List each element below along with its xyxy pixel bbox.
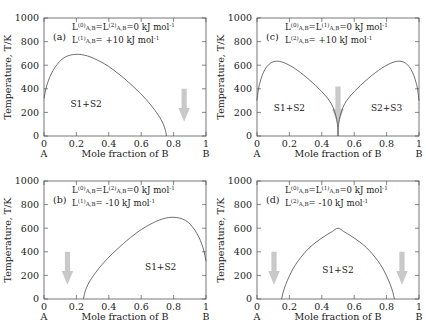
phase-diagram-figure: 0200400600800100000.20.40.60.81ABMole fr… [0,0,426,326]
axis-end-label-a: A [253,148,261,159]
x-axis-title: Mole fraction of B [294,311,381,322]
y-tick-label: 200 [21,107,39,118]
equation-line: L(0)A,B=L(2)A,B=0 kJ mol-1 [72,185,175,195]
y-tick-label: 1000 [228,175,252,186]
region-label: S1+S2 [322,265,353,275]
region-label: S1+S2 [70,99,101,109]
phase-boundary-curve [338,61,419,136]
down-arrow-icon [178,89,190,122]
y-tick-label: 600 [234,60,252,71]
y-tick-label: 0 [33,130,39,141]
y-tick-label: 800 [234,199,252,210]
phase-boundary-curve [257,61,338,136]
panel-a: 0200400600800100000.20.40.60.81ABMole fr… [0,0,213,163]
down-arrow-icon [62,252,73,285]
y-tick-label: 0 [246,130,252,141]
y-axis-title: Temperature, T/K [2,34,13,120]
region-label: S2+S3 [371,103,403,113]
panel-c: 0200400600800100000.20.40.60.81ABMole fr… [213,0,426,163]
down-arrow-icon [396,252,408,285]
axis-end-label-b: B [203,148,210,159]
x-axis-title: Mole fraction of B [81,311,168,322]
y-tick-label: 400 [21,83,39,94]
phase-boundary-curve [44,54,166,136]
y-tick-label: 200 [234,107,252,118]
y-tick-label: 0 [33,293,39,304]
down-arrow-icon [332,86,344,125]
axis-end-label-b: B [203,311,210,322]
y-tick-label: 200 [234,270,252,281]
y-tick-label: 800 [234,36,252,47]
region-label: S1+S2 [145,262,176,272]
equation-line: L(0)A,B=L(1)A,B=0 kJ mol-1 [285,185,388,195]
axis-end-label-a: A [253,311,261,322]
equation-line: L(2)A,B= -10 kJ mol-1 [285,198,368,208]
y-tick-label: 1000 [15,12,39,23]
y-tick-label: 0 [246,293,252,304]
down-arrow-icon [268,252,280,285]
equation-line: L(2)A,B= +10 kJ mol-1 [285,35,372,45]
y-tick-label: 400 [234,83,252,94]
y-tick-label: 800 [21,36,39,47]
panel-tag: (c) [266,31,279,42]
y-tick-label: 600 [21,223,39,234]
y-tick-label: 1000 [15,175,39,186]
phase-boundary-curve [84,217,206,299]
x-axis-title: Mole fraction of B [81,148,168,159]
axis-end-label-a: A [40,311,48,322]
x-axis-title: Mole fraction of B [294,148,381,159]
y-tick-label: 1000 [228,12,252,23]
axis-end-label-a: A [40,148,48,159]
y-tick-label: 800 [21,199,39,210]
equation-line: L(0)A,B=L(1)A,B=0 kJ mol-1 [285,22,388,32]
y-tick-label: 400 [234,246,252,257]
y-tick-label: 400 [21,246,39,257]
panel-d: 0200400600800100000.20.40.60.81ABMole fr… [213,163,426,326]
panel-b: 0200400600800100000.20.40.60.81ABMole fr… [0,163,213,326]
equation-line: L(1)A,B= -10 kJ mol-1 [72,198,155,208]
axis-end-label-b: B [416,311,423,322]
equation-line: L(0)A,B=L(2)A,B=0 kJ mol-1 [72,22,175,32]
y-axis-title: Temperature, T/K [215,34,226,120]
y-tick-label: 600 [21,60,39,71]
phase-boundary-curve [282,228,395,299]
y-axis-title: Temperature, T/K [2,197,13,283]
y-tick-label: 200 [21,270,39,281]
y-tick-label: 600 [234,223,252,234]
y-axis-title: Temperature, T/K [215,197,226,283]
panel-tag: (b) [53,194,67,205]
panel-tag: (d) [266,194,280,205]
equation-line: L(1)A,B= +10 kJ mol-1 [72,35,159,45]
panel-tag: (a) [53,31,66,42]
axis-end-label-b: B [416,148,423,159]
region-label: S1+S2 [274,103,305,113]
